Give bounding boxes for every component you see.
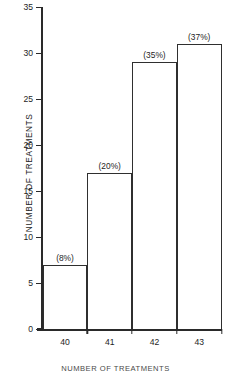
bar: (37%) (177, 44, 222, 329)
bar-chart-figure: NUMBER OF TREATMENTS 05101520253035 (8%)… (0, 0, 231, 371)
y-tick-label: 35 (23, 2, 33, 12)
bar: (20%) (87, 173, 132, 329)
x-tick-label: 43 (194, 337, 204, 347)
y-tick-mark (36, 7, 42, 8)
x-tick-mark (87, 329, 88, 334)
x-tick-label: 40 (60, 337, 70, 347)
y-tick-mark (36, 145, 42, 146)
y-tick-label: 20 (23, 140, 33, 150)
y-tick-label: 15 (23, 186, 33, 196)
y-tick-mark (36, 191, 42, 192)
x-tick-label: 41 (105, 337, 115, 347)
bar: (8%) (43, 265, 88, 329)
bar-value-label: (35%) (143, 50, 165, 60)
plot-area: 05101520253035 (8%)(20%)(35%)(37%) 40414… (41, 7, 222, 329)
x-tick-label: 42 (150, 337, 160, 347)
bar-value-label: (20%) (99, 161, 121, 171)
y-tick-mark (36, 53, 42, 54)
y-tick-label: 25 (23, 94, 33, 104)
y-tick-mark (36, 99, 42, 100)
y-tick-mark (36, 283, 42, 284)
x-tick-mark (176, 329, 177, 334)
y-tick-mark (36, 237, 42, 238)
bar: (35%) (132, 62, 177, 329)
y-tick-label: 10 (23, 232, 33, 242)
bar-value-label: (37%) (188, 32, 210, 42)
bar-value-label: (8%) (56, 253, 74, 263)
figure-caption: NUMBER OF TREATMENTS (0, 364, 231, 371)
y-tick-label: 5 (28, 278, 33, 288)
y-tick-mark (36, 329, 42, 330)
x-tick-mark (131, 329, 132, 334)
y-tick-label: 30 (23, 48, 33, 58)
y-tick-label: 0 (28, 324, 33, 334)
x-tick-mark (221, 329, 222, 334)
